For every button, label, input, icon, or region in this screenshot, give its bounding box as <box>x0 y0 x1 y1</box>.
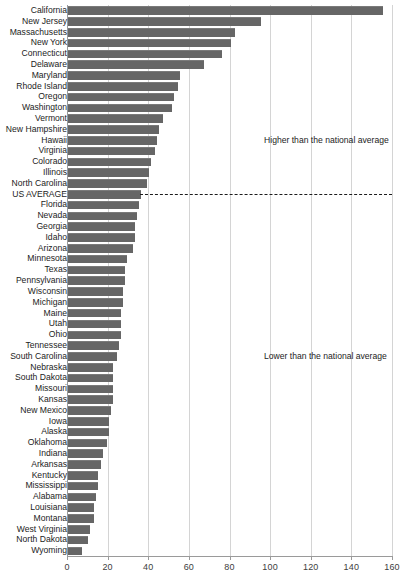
tick-mark-40 <box>148 556 149 560</box>
category-label: Illinois <box>0 167 67 178</box>
bar-row: North Dakota <box>0 534 405 545</box>
bar <box>68 471 98 480</box>
bar <box>68 114 163 123</box>
category-label: Utah <box>0 318 67 329</box>
category-label: Vermont <box>0 113 67 124</box>
category-label: Michigan <box>0 297 67 308</box>
category-label: Rhode Island <box>0 81 67 92</box>
bar <box>68 363 113 372</box>
category-label: US AVERAGE <box>0 189 67 200</box>
category-label: South Carolina <box>0 351 67 362</box>
bar <box>68 460 101 469</box>
category-label: Alabama <box>0 491 67 502</box>
tick-mark-60 <box>189 556 190 560</box>
category-label: Colorado <box>0 156 67 167</box>
bar-row: West Virginia <box>0 524 405 535</box>
bar-row: Nevada <box>0 210 405 221</box>
bar-row: California <box>0 5 405 16</box>
x-tick-label: 40 <box>128 562 168 572</box>
bar <box>68 395 113 404</box>
category-label: Delaware <box>0 59 67 70</box>
tick-mark-160 <box>392 556 393 560</box>
bar <box>68 320 121 329</box>
x-tick-label: 0 <box>47 562 87 572</box>
bar <box>68 147 155 156</box>
bar <box>68 17 261 26</box>
category-label: Missouri <box>0 383 67 394</box>
bar <box>68 212 137 221</box>
bar-row: Connecticut <box>0 48 405 59</box>
bar-row: Pennsylvania <box>0 275 405 286</box>
tick-mark-20 <box>108 556 109 560</box>
bar <box>68 125 159 134</box>
category-label: Connecticut <box>0 48 67 59</box>
annotation-text: Lower than the national average <box>264 351 387 361</box>
tick-mark-80 <box>230 556 231 560</box>
bar-row: Ohio <box>0 329 405 340</box>
bar <box>68 482 98 491</box>
bar-row: Virginia <box>0 145 405 156</box>
bar-row: North Carolina <box>0 178 405 189</box>
bar-row: Oregon <box>0 91 405 102</box>
category-label: Arkansas <box>0 459 67 470</box>
tick-mark-0 <box>67 556 68 560</box>
x-tick-label: 120 <box>291 562 331 572</box>
category-label: Arizona <box>0 243 67 254</box>
bar <box>68 190 141 199</box>
category-label: Florida <box>0 199 67 210</box>
bar-row: Maine <box>0 308 405 319</box>
bar-row: Georgia <box>0 221 405 232</box>
bar-row: Utah <box>0 318 405 329</box>
bar <box>68 158 151 167</box>
bar <box>68 233 135 242</box>
bar <box>68 439 107 448</box>
category-label: Nebraska <box>0 362 67 373</box>
category-label: North Dakota <box>0 534 67 545</box>
tick-mark-120 <box>311 556 312 560</box>
bar-row: New Jersey <box>0 16 405 27</box>
bar-row: Massachusetts <box>0 27 405 38</box>
category-label: Kentucky <box>0 470 67 481</box>
x-tick-label: 100 <box>250 562 290 572</box>
bar-row: Wisconsin <box>0 286 405 297</box>
bar <box>68 93 174 102</box>
bar <box>68 255 127 264</box>
bar <box>68 168 149 177</box>
bar-row: Colorado <box>0 156 405 167</box>
x-tick-label: 60 <box>169 562 209 572</box>
bar <box>68 298 123 307</box>
bar-row: New Mexico <box>0 405 405 416</box>
category-label: Mississippi <box>0 480 67 491</box>
bar <box>68 428 109 437</box>
bar-row: New York <box>0 37 405 48</box>
bar <box>68 406 111 415</box>
bar-row: Texas <box>0 264 405 275</box>
bar <box>68 222 135 231</box>
bar <box>68 331 121 340</box>
bar <box>68 493 96 502</box>
bar-row: South Dakota <box>0 372 405 383</box>
bar <box>68 514 94 523</box>
bar-row: Washington <box>0 102 405 113</box>
category-label: Texas <box>0 264 67 275</box>
bar-row: Indiana <box>0 448 405 459</box>
bar-row: Oklahoma <box>0 437 405 448</box>
category-label: South Dakota <box>0 372 67 383</box>
x-tick-label: 140 <box>331 562 371 572</box>
bar-row: Louisiana <box>0 502 405 513</box>
bar <box>68 449 103 458</box>
bar-row: New Hampshire <box>0 124 405 135</box>
bar-row: Vermont <box>0 113 405 124</box>
category-label: Ohio <box>0 329 67 340</box>
category-label: Wyoming <box>0 545 67 556</box>
bar <box>68 6 383 15</box>
bar <box>68 417 109 426</box>
bar-row: Kentucky <box>0 470 405 481</box>
category-label: Washington <box>0 102 67 113</box>
bar <box>68 50 222 59</box>
bar-row: Florida <box>0 199 405 210</box>
bar-row: Mississippi <box>0 480 405 491</box>
bar <box>68 136 157 145</box>
bar <box>68 374 113 383</box>
bar-row: Missouri <box>0 383 405 394</box>
